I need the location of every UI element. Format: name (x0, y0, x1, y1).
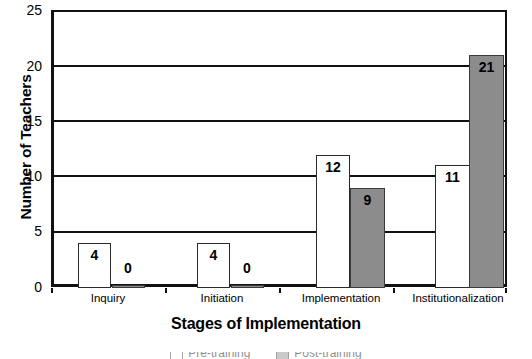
plot-frame-right (505, 10, 507, 287)
y-tick-label-0: 0 (2, 279, 42, 295)
legend-item-2: Post-training (276, 352, 361, 359)
legend-label-1: Pre-training (188, 352, 250, 359)
bar-value-label: 4 (79, 247, 110, 263)
bar-institutionalization-gray: 21 (469, 55, 504, 288)
legend-swatch-white-icon (170, 352, 183, 359)
legend-label-2: Post-training (294, 352, 361, 359)
gridline-20 (51, 65, 507, 67)
y-tick-label-20: 20 (2, 58, 42, 74)
x-axis-title: Stages of Implementation (0, 315, 532, 333)
bar-value-label: 21 (470, 59, 503, 75)
x-category-label-initiation: Initiation (182, 292, 262, 304)
x-category-label-inquiry: Inquiry (68, 292, 148, 304)
bar-value-label: 12 (317, 159, 349, 175)
y-tick-label-10: 10 (2, 168, 42, 184)
y-tick-label-25: 25 (2, 2, 42, 18)
x-category-label-institutionalization: Institutionalization (395, 292, 521, 304)
bar-implementation-white: 12 (316, 155, 350, 288)
bar-inquiry-white: 4 (78, 243, 111, 288)
x-tick-2 (279, 288, 281, 293)
bar-value-label: 4 (198, 247, 229, 263)
legend: Pre-training Post-training (0, 352, 532, 359)
bar-institutionalization-white: 11 (435, 165, 470, 288)
bar-value-label-initiation-gray: 0 (232, 260, 262, 276)
legend-item-1: Pre-training (170, 352, 250, 359)
bar-inquiry-gray (112, 285, 145, 288)
bar-value-label: 9 (351, 192, 384, 208)
gridline-15 (51, 120, 507, 122)
y-tick-label-5: 5 (2, 223, 42, 239)
x-tick-0 (51, 288, 53, 293)
bar-value-label-inquiry-gray: 0 (113, 260, 143, 276)
bar-initiation-gray (231, 285, 264, 288)
bar-initiation-white: 4 (197, 243, 230, 288)
x-tick-1 (165, 288, 167, 293)
x-category-label-implementation: Implementation (286, 292, 396, 304)
bar-value-label: 11 (436, 169, 469, 185)
y-tick-label-15: 15 (2, 113, 42, 129)
legend-swatch-gray-icon (276, 352, 289, 359)
bar-implementation-gray: 9 (350, 188, 385, 288)
bar-chart: Number of Teachers 25 20 15 10 5 0 4 0 4… (0, 0, 532, 359)
plot-frame-top (51, 10, 507, 12)
